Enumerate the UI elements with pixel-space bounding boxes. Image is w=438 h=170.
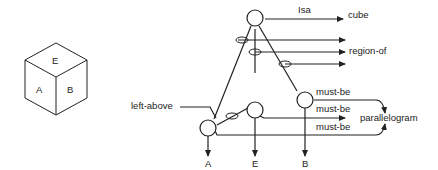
node-top (247, 10, 263, 26)
cube-target-label: cube (348, 9, 369, 20)
must-be-label-1: must-be (316, 86, 350, 97)
cube-figure (25, 43, 87, 115)
parallelogram-label: parallelogram (360, 112, 418, 123)
leaf-a-label: A (205, 158, 212, 169)
cube-face-top: E (52, 55, 58, 66)
node-left (200, 120, 216, 136)
semantic-network-diagram: E A B (0, 0, 438, 170)
cube-face-right: B (67, 84, 73, 95)
node-middle (247, 102, 263, 118)
region-of-label: region-of (349, 45, 387, 56)
must-be-label-3: must-be (316, 121, 350, 132)
node-right (297, 92, 313, 108)
must-be-label-2: must-be (316, 103, 350, 114)
leaf-e-label: E (252, 158, 258, 169)
leaf-b-label: B (302, 158, 308, 169)
left-above-label: left-above (131, 100, 173, 111)
isa-label: Isa (298, 4, 311, 15)
cube-face-left: A (36, 84, 43, 95)
